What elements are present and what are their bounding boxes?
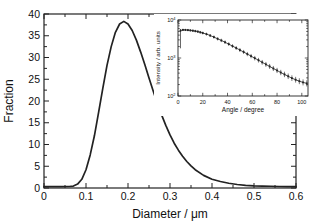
y-tick-label: 40 bbox=[28, 8, 40, 20]
data-point-marker bbox=[258, 59, 260, 61]
data-point-marker bbox=[194, 30, 196, 32]
data-point-marker bbox=[284, 74, 286, 76]
data-point-marker bbox=[261, 61, 263, 63]
inset-y-axis-title: Intensity / arb. units bbox=[154, 31, 161, 85]
x-tick-label: 0.4 bbox=[205, 190, 220, 202]
data-point-marker bbox=[187, 29, 189, 31]
x-tick-label: 0.2 bbox=[121, 190, 136, 202]
y-tick-label: 0 bbox=[34, 182, 40, 194]
data-point-marker bbox=[185, 29, 187, 31]
data-point-marker bbox=[272, 68, 274, 70]
inset-plot: 020406080100102103104Angle / degreeInten… bbox=[154, 14, 314, 116]
data-point-marker bbox=[235, 47, 237, 49]
data-point-marker bbox=[254, 57, 256, 59]
data-point-marker bbox=[302, 81, 304, 83]
inset-x-tick-label: 40 bbox=[224, 99, 230, 105]
y-tick-label: 5 bbox=[34, 160, 40, 172]
data-point-marker bbox=[189, 29, 191, 31]
y-tick-label: 25 bbox=[28, 73, 40, 85]
x-tick-label: 0.6 bbox=[289, 190, 304, 202]
data-point-marker bbox=[243, 51, 245, 53]
x-tick-label: 0.1 bbox=[79, 190, 94, 202]
data-point-marker bbox=[220, 40, 222, 42]
data-point-marker bbox=[209, 35, 211, 37]
data-point-marker bbox=[180, 30, 182, 32]
data-point-marker bbox=[276, 70, 278, 72]
inset-x-tick-label: 100 bbox=[297, 99, 306, 105]
inset-x-tick-label: 60 bbox=[249, 99, 255, 105]
data-point-marker bbox=[298, 80, 300, 82]
data-point-marker bbox=[228, 43, 230, 45]
distribution-chart: 00.10.20.30.40.50.60510152025303540Diame… bbox=[0, 0, 316, 224]
data-point-marker bbox=[202, 32, 204, 34]
inset-x-tick-label: 0 bbox=[176, 99, 179, 105]
data-point-marker bbox=[265, 63, 267, 65]
data-point-marker bbox=[287, 75, 289, 77]
x-tick-label: 0 bbox=[41, 190, 47, 202]
x-tick-label: 0.3 bbox=[163, 190, 178, 202]
inset-x-axis-title: Angle / degree bbox=[222, 106, 265, 114]
data-point-marker bbox=[232, 45, 234, 47]
y-tick-label: 30 bbox=[28, 51, 40, 63]
data-point-marker bbox=[192, 30, 194, 32]
data-point-marker bbox=[246, 53, 248, 55]
y-tick-label: 15 bbox=[28, 116, 40, 128]
data-point-marker bbox=[250, 55, 252, 57]
data-point-marker bbox=[269, 66, 271, 68]
data-point-marker bbox=[182, 29, 184, 31]
main-y-tick-labels: 0510152025303540 bbox=[28, 8, 40, 194]
y-tick-label: 10 bbox=[28, 138, 40, 150]
inset-x-tick-label: 20 bbox=[200, 99, 206, 105]
data-point-marker bbox=[217, 38, 219, 40]
data-point-marker bbox=[295, 79, 297, 81]
data-point-marker bbox=[306, 82, 308, 84]
data-point-marker bbox=[206, 33, 208, 35]
y-tick-label: 20 bbox=[28, 95, 40, 107]
x-tick-label: 0.5 bbox=[247, 190, 262, 202]
data-point-marker bbox=[239, 49, 241, 51]
chart-figure: 00.10.20.30.40.50.60510152025303540Diame… bbox=[0, 0, 316, 224]
main-x-tick-labels: 00.10.20.30.40.50.6 bbox=[41, 190, 303, 202]
inset-x-tick-label: 80 bbox=[274, 99, 280, 105]
data-point-marker bbox=[213, 36, 215, 38]
data-point-marker bbox=[224, 41, 226, 43]
data-point-marker bbox=[197, 31, 199, 33]
y-tick-label: 35 bbox=[28, 29, 40, 41]
y-axis-title: Fraction bbox=[2, 79, 16, 122]
data-point-marker bbox=[199, 31, 201, 33]
x-axis-title: Diameter / μm bbox=[132, 207, 208, 221]
data-point-marker bbox=[291, 77, 293, 79]
data-point-marker bbox=[280, 72, 282, 74]
